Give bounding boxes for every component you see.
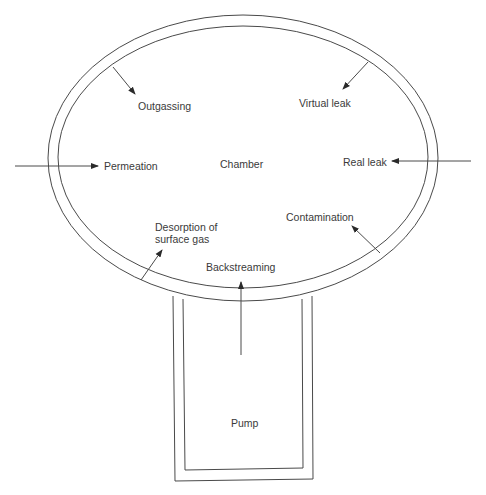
pump-label: Pump [231,417,258,429]
chamber-label: Chamber [220,158,263,170]
backstreaming-label: Backstreaming [206,261,275,273]
pump-body [173,296,313,481]
virtual-leak-label: Virtual leak [299,97,351,109]
pump-inner-wall [183,299,303,470]
real-leak-label: Real leak [343,156,387,168]
contamination-label: Contamination [286,211,354,223]
desorption-label: Desorption of surface gas [155,221,217,245]
outgassing-label: Outgassing [138,100,191,112]
pump-outer-wall [173,296,313,481]
permeation-label: Permeation [104,160,158,172]
